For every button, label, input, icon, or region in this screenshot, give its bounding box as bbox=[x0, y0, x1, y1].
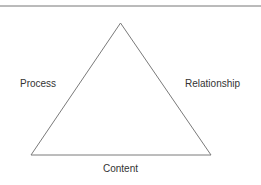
triangle-shape bbox=[31, 23, 211, 155]
label-process: Process bbox=[20, 78, 56, 89]
label-relationship: Relationship bbox=[185, 78, 240, 89]
triangle-diagram bbox=[0, 0, 261, 185]
label-content: Content bbox=[103, 163, 138, 174]
